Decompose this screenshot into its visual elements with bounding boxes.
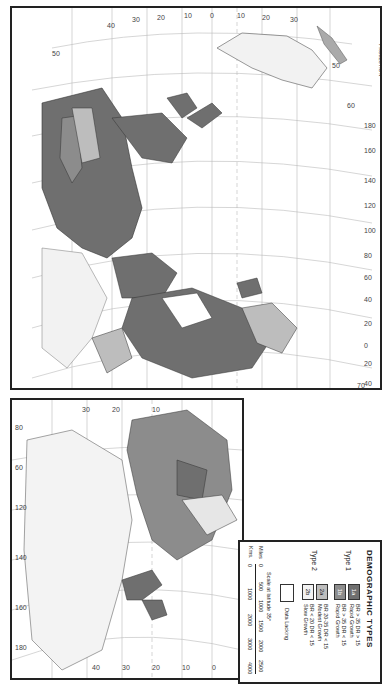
tick-label: 60 xyxy=(364,274,372,281)
map-panel-eastern-hemisphere: 50 40 30 20 10 0 10 20 30 50 60 70 180 1… xyxy=(10,6,382,390)
scale-tick-miles: 500 xyxy=(258,582,264,591)
legend-label-line: Modest Growth xyxy=(317,604,323,641)
legend-label-data-lacking: Data Lacking xyxy=(284,608,290,640)
legend-label-line: Rapid Growth xyxy=(349,604,355,638)
eastern-hemisphere-map: 50 40 30 20 10 0 10 20 30 50 60 70 180 1… xyxy=(12,8,380,388)
legend-title: DEMOGRAPHIC TYPES xyxy=(365,550,374,648)
tick-label: 40 xyxy=(107,22,115,29)
legend-label-line: BR 20-35 DR < 15 xyxy=(323,604,329,649)
map-panel-western-hemisphere: 30 20 10 0 10 20 30 40 80 60 120 140 160… xyxy=(10,398,244,680)
tick-label: 140 xyxy=(364,177,376,184)
north-africa-region xyxy=(92,328,132,373)
tick-label: 30 xyxy=(82,406,90,413)
central-america-region xyxy=(142,600,167,620)
tick-label: 20 xyxy=(262,14,270,21)
scale-tick-miles: 1500 xyxy=(258,620,264,632)
tick-label: 160 xyxy=(364,147,376,154)
legend-label-1a: BR > 35 DR > 15 Rapid Growth xyxy=(349,604,361,646)
tick-label: 140 xyxy=(15,554,27,561)
tick-label: 50 xyxy=(332,62,340,69)
tick-label: 10 xyxy=(184,12,192,19)
tick-label: 40 xyxy=(364,380,372,387)
tick-label: 120 xyxy=(364,202,376,209)
legend-type-1-label: Type 1 xyxy=(345,550,352,571)
scale-tick-miles: 1000 xyxy=(258,600,264,612)
tick-label: 20 xyxy=(364,320,372,327)
legend-label-line: Rapid Growth xyxy=(335,604,341,638)
projection-label-line: PROJECTION xyxy=(378,44,382,76)
tick-label: 0 xyxy=(210,12,214,19)
tick-label: 20 xyxy=(112,406,120,413)
scale-tick-kms: 2000 xyxy=(247,614,253,626)
legend-label-line: Slow Growth xyxy=(303,604,309,635)
tick-label: 30 xyxy=(122,664,130,671)
tick-label: 20 xyxy=(364,360,372,367)
new-zealand-shape xyxy=(317,26,347,64)
western-hemisphere-map: 30 20 10 0 10 20 30 40 80 60 120 140 160… xyxy=(12,400,242,678)
legend-swatch-1b: 1b xyxy=(334,584,346,600)
scale-tick-miles: 2000 xyxy=(258,640,264,652)
scale-kms-label: Kms. xyxy=(248,546,254,559)
north-america-region xyxy=(24,430,132,670)
madagascar-region xyxy=(237,278,262,298)
tick-label: 180 xyxy=(15,644,27,651)
tick-label: 20 xyxy=(152,664,160,671)
legend-label-line: BR > 35 DR > 15 xyxy=(355,604,361,646)
mexico-region xyxy=(122,570,162,600)
legend-swatch-data-lacking xyxy=(280,584,294,602)
legend-box: DEMOGRAPHIC TYPES Type 1 1a BR > 35 DR >… xyxy=(238,540,382,684)
tick-label: 10 xyxy=(152,406,160,413)
tick-label: 40 xyxy=(364,296,372,303)
legend-swatch-2b: 2b xyxy=(302,584,314,600)
legend-type-2-label: Type 2 xyxy=(311,550,318,571)
australia-shape xyxy=(217,33,327,88)
tick-label: 120 xyxy=(15,504,27,511)
tick-label: 30 xyxy=(132,16,140,23)
tick-label: 100 xyxy=(364,227,376,234)
tick-label: 0 xyxy=(364,342,368,349)
legend-label-line: BR > 35 DR < 15 xyxy=(341,604,347,646)
tick-label: 60 xyxy=(15,464,23,471)
tick-label: 80 xyxy=(364,252,372,259)
tick-label: 80 xyxy=(15,424,23,431)
legend-label-1b: BR > 35 DR < 15 Rapid Growth xyxy=(335,604,347,646)
philippines-region xyxy=(167,93,197,118)
scale-tick-kms: 1000 xyxy=(247,588,253,600)
tick-label: 30 xyxy=(290,16,298,23)
tick-label: 40 xyxy=(92,664,100,671)
scale-tick-kms: 0 xyxy=(247,564,253,567)
tick-label: 10 xyxy=(182,664,190,671)
tick-label: 0 xyxy=(212,664,216,671)
scale-tick-kms: 4000 xyxy=(247,662,253,674)
legend-label-2a: BR 20-35 DR < 15 Modest Growth xyxy=(317,604,329,649)
tick-label: 60 xyxy=(347,102,355,109)
scale-title: Scale at latitude 35° xyxy=(266,572,272,621)
projection-label: FLAT POLAR QUARTIC EQUAL AREA PROJECTION xyxy=(358,30,382,70)
scale-tick-kms: 3000 xyxy=(247,638,253,650)
legend-label-2b: BR < 20 DR < 15 Slow Growth xyxy=(303,604,315,646)
middle-east-region xyxy=(112,253,177,298)
tick-label: 50 xyxy=(52,50,60,57)
legend-swatch-1a: 1a xyxy=(348,584,360,600)
tick-label: 160 xyxy=(15,604,27,611)
scale-tick-miles: 0 xyxy=(258,564,264,567)
tick-label: 180 xyxy=(364,122,376,129)
legend-label-line: BR < 20 DR < 15 xyxy=(309,604,315,646)
legend-swatch-2a: 2a xyxy=(316,584,328,600)
scale-tick-miles: 2500 xyxy=(258,660,264,672)
tick-label: 10 xyxy=(237,12,245,19)
longitude-tick-labels: 180 160 140 120 100 80 60 40 20 0 20 40 xyxy=(364,122,376,387)
scale-miles-label: Miles xyxy=(258,546,264,559)
scale-bar xyxy=(255,564,256,674)
tick-label: 20 xyxy=(157,14,165,21)
parallel-line xyxy=(52,33,352,48)
